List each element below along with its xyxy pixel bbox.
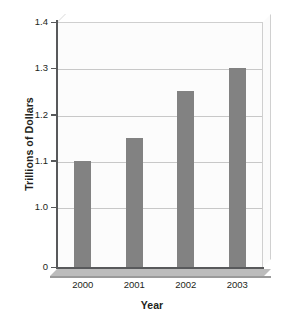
axis-floor — [50, 269, 271, 276]
x-axis-tick-label: 2000 — [57, 279, 109, 290]
y-axis-tick-label: 1.3 — [8, 62, 48, 73]
y-axis-line — [56, 20, 58, 269]
y-axis-tick — [51, 22, 57, 24]
y-axis-title: Trillions of Dollars — [23, 64, 35, 224]
plot-3d-top-face — [57, 14, 279, 22]
x-axis-tick-label: 2003 — [211, 279, 263, 290]
bar-2001 — [126, 138, 143, 267]
y-axis-tick-label: 1.1 — [8, 155, 48, 166]
y-axis-tick — [51, 114, 57, 116]
axis-floor-shadow — [50, 276, 271, 278]
bar-2000 — [74, 161, 91, 267]
bar-2002 — [177, 91, 194, 267]
x-axis-line — [56, 267, 264, 269]
plot-3d-right-face — [263, 14, 271, 267]
y-axis-tick — [51, 160, 57, 162]
x-axis-tick-label: 2002 — [160, 279, 212, 290]
bar-2003 — [229, 68, 246, 267]
y-axis-tick-label: 0 — [8, 261, 48, 272]
y-axis-tick — [51, 267, 57, 269]
x-axis-title: Year — [52, 299, 252, 311]
y-axis-tick — [51, 68, 57, 70]
y-axis-tick — [51, 207, 57, 209]
bar-chart-figure: Trillions of Dollars Year 1.41.31.21.11.… — [0, 0, 294, 327]
y-axis-tick-label: 1.4 — [8, 16, 48, 27]
y-axis-tick-label: 1.0 — [8, 201, 48, 212]
x-axis-tick-label: 2001 — [108, 279, 160, 290]
y-axis-tick-label: 1.2 — [8, 109, 48, 120]
